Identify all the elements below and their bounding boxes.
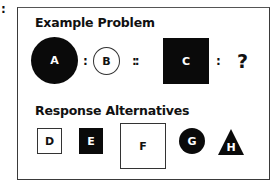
option-d-label: D <box>45 135 54 148</box>
shape-b-small-white-circle: B <box>93 47 120 75</box>
analogy-double-colon: :: <box>132 55 138 67</box>
option-f-label: F <box>139 140 147 153</box>
option-h-small-black-triangle[interactable]: H <box>218 129 244 155</box>
shape-a-label: A <box>50 54 59 67</box>
option-g-label: G <box>187 135 196 148</box>
ratio-colon-2: : <box>216 55 221 67</box>
option-g-small-black-circle[interactable]: G <box>179 128 205 154</box>
shape-c-large-black-square: C <box>163 38 209 84</box>
option-h-label: H <box>218 141 244 154</box>
shape-a-large-black-circle: A <box>31 37 78 84</box>
response-alternatives-heading: Response Alternatives <box>35 104 189 118</box>
outer-colon-symbol: : <box>1 3 6 15</box>
unknown-question-mark: ? <box>237 51 248 71</box>
ratio-colon-1: : <box>83 55 88 67</box>
example-problem-heading: Example Problem <box>35 16 155 30</box>
option-e-label: E <box>87 135 95 148</box>
shape-b-label: B <box>102 55 110 68</box>
option-f-large-white-square[interactable]: F <box>120 123 166 169</box>
shape-c-label: C <box>182 55 190 68</box>
option-e-small-black-square[interactable]: E <box>79 128 103 154</box>
option-d-small-white-square[interactable]: D <box>37 128 62 154</box>
